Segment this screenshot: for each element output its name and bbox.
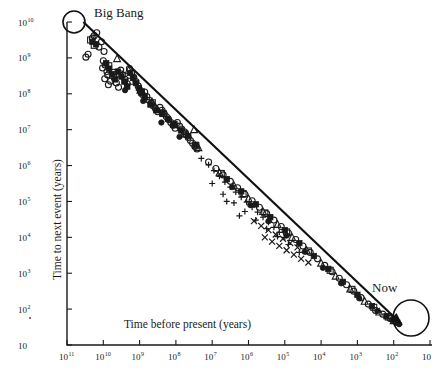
svg-text:109: 109: [132, 351, 145, 362]
svg-text:108: 108: [168, 351, 181, 362]
svg-text:105: 105: [277, 351, 290, 362]
svg-text:106: 106: [241, 351, 254, 362]
scan-speck: [29, 317, 31, 319]
trend-line: [83, 22, 402, 325]
y-axis-ticks: 101010910810710610510410310210: [18, 17, 72, 351]
svg-text:102: 102: [18, 304, 31, 315]
y-axis-title: Time to next event (years): [51, 159, 64, 280]
svg-text:104: 104: [313, 351, 326, 362]
svg-text:1011: 1011: [59, 351, 74, 362]
svg-text:1010: 1010: [95, 351, 111, 362]
chart-figure: 1011101010910810710610510410310210 10101…: [0, 0, 441, 374]
svg-text:10: 10: [18, 341, 28, 351]
svg-text:107: 107: [204, 351, 217, 362]
svg-text:1010: 1010: [18, 17, 34, 28]
loglog-scatter-plot: 1011101010910810710610510410310210 10101…: [0, 0, 441, 374]
svg-text:103: 103: [349, 351, 362, 362]
svg-text:107: 107: [18, 124, 31, 135]
svg-text:108: 108: [18, 88, 31, 99]
svg-text:102: 102: [386, 351, 399, 362]
axis-lines: [67, 22, 432, 345]
big-bang-label: Big Bang: [94, 5, 144, 20]
series-triangle: [114, 55, 397, 324]
svg-text:109: 109: [18, 52, 31, 63]
svg-text:104: 104: [18, 232, 31, 243]
svg-text:106: 106: [18, 160, 31, 171]
series-open-square: [88, 37, 392, 320]
svg-text:10: 10: [422, 352, 432, 362]
now-label: Now: [372, 280, 398, 295]
x-axis-title: Time before present (years): [124, 318, 251, 331]
svg-text:103: 103: [18, 268, 31, 279]
series-filled-square: [90, 39, 400, 325]
svg-text:105: 105: [18, 196, 31, 207]
x-axis-ticks: 1011101010910810710610510410310210: [59, 340, 432, 362]
data-markers: [83, 30, 402, 327]
